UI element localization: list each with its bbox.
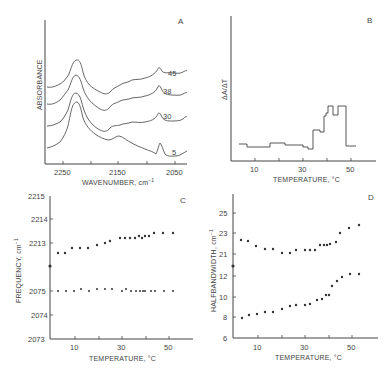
panel-a-ylabel: ABSORBANCE [36,59,43,110]
curve-label-45: 45 [168,69,176,78]
panel-a: 2250 2150 2050 WAVENUMBER, cm−1 ABSORBAN… [36,17,187,186]
panel-c-xtick-2: 50 [164,343,172,352]
panel-d-xtick-2: 50 [347,343,355,352]
curve-label-5: 5 [172,148,176,157]
panel-c-letter: C [180,196,186,205]
panel-b-ylabel: ΔA/ΔT [221,78,228,100]
panel-b-xlabel: TEMPERATURE, °C [273,176,340,183]
panel-c-ytick-4: 2074 [31,311,48,320]
panel-b: 10 30 50 TEMPERATURE, °C ΔA/ΔT B [221,16,376,183]
curve-label-30: 30 [163,112,171,121]
panel-c-xtick-0: 10 [70,343,78,352]
panel-d-xtick-0: 10 [253,343,261,352]
panel-a-xlabel: WAVENUMBER, cm−1 [82,177,154,186]
panel-c-xlabel: TEMPERATURE, °C [89,355,156,362]
panel-c-ytick-5: 2073 [28,335,45,344]
panel-d-ytick-1: 23 [219,229,227,238]
panel-d-ytick-0: 25 [219,209,227,218]
panel-b-xtick-0: 10 [250,165,258,174]
panel-c-ytick-3: 2075 [29,287,46,296]
panel-c-xtick-1: 30 [117,343,125,352]
panel-c-lower-points [57,288,174,292]
panel-c-ytick-2: 2213 [29,239,46,248]
panel-d: 25 23 21 12 10 8 6 10 30 50 TEMPERATURE,… [208,193,378,361]
panel-c-ylabel: FREQUENCY, cm−1 [13,238,23,303]
panel-c-ytick-1: 2214 [31,215,48,224]
panel-b-xtick-2: 50 [346,165,354,174]
panel-d-xtick-1: 30 [300,343,308,352]
panel-c: 2215 2214 2213 2075 2074 2073 10 30 50 T… [13,192,193,362]
panel-d-ytick-6: 6 [223,334,227,343]
panel-c-axis-break-marker [48,264,51,267]
figure: 2250 2150 2050 WAVENUMBER, cm−1 ABSORBAN… [0,0,387,373]
panel-b-letter: B [367,16,372,25]
panel-c-upper-points [57,232,174,254]
panel-d-lower-points [241,273,360,319]
panel-c-ytick-0: 2215 [28,192,45,201]
panel-d-ytick-2: 21 [219,250,227,259]
panel-d-ytick-4: 10 [219,293,227,302]
panel-a-spectra [47,60,187,156]
panel-d-letter: D [368,193,374,202]
panel-a-xtick-1: 2150 [109,168,126,177]
panel-d-ytick-3: 12 [219,272,227,281]
panel-d-ylabel: HALFBANDWIDTH, cm−1 [208,229,217,312]
panel-b-step-line [239,106,356,149]
panel-d-xlabel: TEMPERATURE, °C [275,354,342,361]
panel-d-upper-points [240,224,360,254]
panel-d-axis-break-marker [231,264,234,267]
panel-a-xtick-2: 2050 [166,168,183,177]
panel-d-ytick-5: 8 [223,313,227,322]
curve-label-38: 38 [163,87,171,96]
panel-a-xtick-0: 2250 [54,168,71,177]
panel-b-xtick-1: 30 [298,165,306,174]
panel-a-letter: A [178,17,184,26]
